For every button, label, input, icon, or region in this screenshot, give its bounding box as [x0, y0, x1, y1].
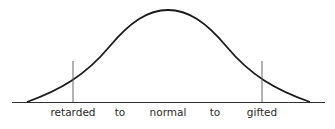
label-gifted: gifted [247, 106, 277, 118]
label-to-1: to [115, 106, 126, 118]
bell-curve [27, 10, 310, 102]
label-normal: normal [150, 106, 187, 118]
label-to-2: to [210, 106, 221, 118]
label-retarded: retarded [50, 106, 95, 118]
